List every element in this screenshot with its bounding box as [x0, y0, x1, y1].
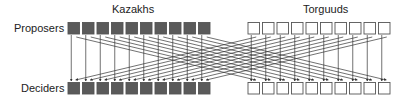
kazakh-proposer-box: [83, 23, 95, 35]
torguud-proposer-box: [321, 23, 333, 35]
torguud-proposer-box: [364, 23, 376, 35]
torguud-decider-box: [277, 83, 289, 95]
torguud-decider-box: [248, 83, 260, 95]
kazakh-proposer-box: [141, 23, 153, 35]
kazakh-proposer-box: [68, 23, 80, 35]
kazakh-proposer-box: [170, 23, 182, 35]
matching-diagram: Kazakhs Torguuds Proposers Deciders: [0, 0, 406, 100]
kazakh-decider-box: [141, 83, 153, 95]
torguud-proposer-box: [292, 23, 304, 35]
kazakh-proposer-box: [184, 23, 196, 35]
torguud-decider-box: [335, 83, 347, 95]
torguud-decider-box: [263, 83, 275, 95]
torguud-proposer-box: [306, 23, 318, 35]
kazakh-proposer-box: [97, 23, 109, 35]
torguud-proposer-box: [248, 23, 260, 35]
torguud-decider-box: [292, 83, 304, 95]
kazakh-decider-box: [97, 83, 109, 95]
kazakh-proposer-box: [112, 23, 124, 35]
torguud-decider-box: [379, 83, 391, 95]
diagram-graphic: [0, 0, 406, 100]
torguud-decider-box: [321, 83, 333, 95]
kazakh-decider-box: [170, 83, 182, 95]
torguud-proposer-box: [379, 23, 391, 35]
kazakh-decider-box: [83, 83, 95, 95]
torguud-proposer-box: [350, 23, 362, 35]
kazakh-proposer-box: [126, 23, 138, 35]
kazakh-decider-box: [68, 83, 80, 95]
torguud-proposer-box: [263, 23, 275, 35]
torguud-decider-box: [364, 83, 376, 95]
torguud-decider-box: [306, 83, 318, 95]
kazakh-decider-box: [155, 83, 167, 95]
kazakh-decider-box: [184, 83, 196, 95]
kazakh-decider-box: [126, 83, 138, 95]
kazakh-decider-box: [112, 83, 124, 95]
kazakh-decider-box: [199, 83, 211, 95]
torguud-decider-box: [350, 83, 362, 95]
kazakh-proposer-box: [155, 23, 167, 35]
torguud-proposer-box: [335, 23, 347, 35]
kazakh-proposer-box: [199, 23, 211, 35]
torguud-proposer-box: [277, 23, 289, 35]
